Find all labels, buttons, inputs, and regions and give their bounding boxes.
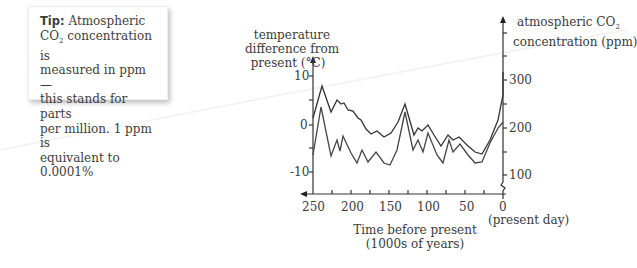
x-tick-250: 250	[302, 200, 325, 214]
right-tick-100: 100	[509, 168, 532, 182]
x-axis-title: Time before present (1000s of years)	[350, 223, 480, 251]
x-present-day-label: (present day)	[488, 213, 569, 227]
x-tick-150: 150	[379, 200, 402, 214]
x-tick-200: 200	[341, 200, 364, 214]
right-axis-title: atmospheric CO2 concentration (ppm)	[513, 15, 637, 49]
right-y-axis	[501, 22, 505, 199]
x-tick-100: 100	[417, 200, 440, 214]
x-tick-0: 0	[499, 200, 507, 214]
right-tick-200: 200	[509, 121, 532, 135]
right-tick-300: 300	[509, 73, 532, 87]
left-tick-neg10: -10	[290, 165, 309, 179]
right-axis-arrow-icon	[500, 16, 506, 23]
left-tick-10: 10	[294, 69, 309, 83]
x-axis-arrow-icon	[300, 191, 307, 197]
left-axis-title: temperature difference from present (°C)	[238, 28, 346, 70]
x-tick-50: 50	[459, 200, 474, 214]
left-tick-0: 0	[300, 118, 308, 132]
